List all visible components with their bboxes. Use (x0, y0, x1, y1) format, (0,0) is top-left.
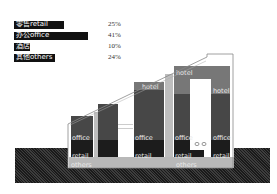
building-outline (0, 0, 277, 194)
vehicle-icons (195, 142, 206, 145)
